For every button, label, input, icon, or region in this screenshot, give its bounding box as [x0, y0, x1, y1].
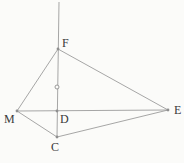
- geometry-figure: FMDCE: [0, 0, 184, 163]
- vertex-dot-C: [56, 136, 59, 139]
- segment-MC: [17, 111, 57, 137]
- vertex-dot-D: [56, 110, 59, 113]
- vertex-label-E: E: [174, 103, 181, 117]
- diagram-svg: FMDCE: [0, 0, 184, 163]
- vertex-label-F: F: [62, 36, 69, 50]
- vertex-dot-F: [57, 48, 60, 51]
- vertex-label-C: C: [51, 140, 59, 154]
- vertex-dot-M: [16, 110, 19, 113]
- vertex-dot-E: [167, 109, 170, 112]
- vertical-line: [57, 2, 59, 137]
- vertex-label-D: D: [60, 112, 69, 126]
- midpoint-marker: [55, 85, 59, 89]
- segment-FE: [58, 49, 168, 110]
- segment-FM: [17, 49, 58, 111]
- vertex-label-M: M: [4, 112, 15, 126]
- segment-ME: [17, 110, 168, 111]
- segment-CE: [57, 110, 168, 137]
